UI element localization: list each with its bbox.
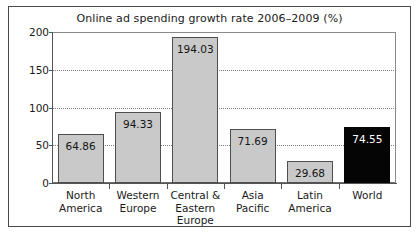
- category-label-line: Central &: [167, 189, 224, 202]
- y-tick-label: 50: [9, 139, 49, 151]
- category-label-line: North: [52, 189, 109, 202]
- bar[interactable]: [172, 37, 218, 183]
- bar-value-label: 29.68: [287, 167, 333, 179]
- gridline: [53, 108, 396, 109]
- gridline: [53, 70, 396, 71]
- y-tick-label: 100: [9, 102, 49, 114]
- chart-figure: Online ad spending growth rate 2006–2009…: [8, 6, 411, 227]
- category-label-line: Eastern: [167, 202, 224, 215]
- category-label: AsiaPacific: [224, 189, 281, 214]
- bar-value-label: 64.86: [58, 140, 104, 152]
- category-label-line: Europe: [109, 202, 166, 215]
- y-tick-label: 0: [9, 177, 49, 189]
- category-label-line: Latin: [281, 189, 338, 202]
- category-label-line: Europe: [167, 214, 224, 227]
- bar-value-label: 94.33: [115, 118, 161, 130]
- bar-value-label: 71.69: [230, 135, 276, 147]
- category-label-line: Asia: [224, 189, 281, 202]
- category-label-line: America: [281, 202, 338, 215]
- category-label-line: Pacific: [224, 202, 281, 215]
- bar-value-label: 74.55: [344, 133, 390, 145]
- category-label-line: Western: [109, 189, 166, 202]
- category-label-line: America: [52, 202, 109, 215]
- y-tick-mark: [49, 108, 53, 109]
- category-label: NorthAmerica: [52, 189, 109, 214]
- y-tick-mark: [49, 32, 53, 33]
- category-label-line: World: [339, 189, 396, 202]
- chart-title: Online ad spending growth rate 2006–2009…: [9, 12, 410, 25]
- y-tick-label: 200: [9, 26, 49, 38]
- bar-value-label: 194.03: [172, 43, 218, 55]
- y-tick-mark: [49, 70, 53, 71]
- category-label: World: [339, 189, 396, 202]
- y-tick-mark: [49, 145, 53, 146]
- y-tick-label: 150: [9, 64, 49, 76]
- category-label: Central &EasternEurope: [167, 189, 224, 227]
- category-label: LatinAmerica: [281, 189, 338, 214]
- category-label: WesternEurope: [109, 189, 166, 214]
- y-tick-mark: [49, 183, 53, 184]
